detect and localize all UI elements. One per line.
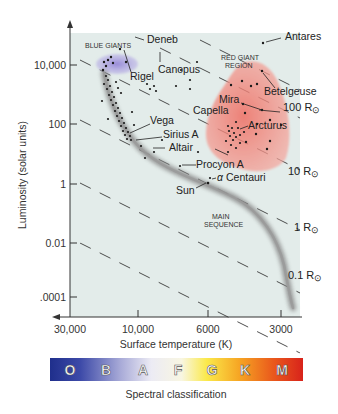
label-main-seq-1: MAIN [212,213,230,220]
spectral-a: A [138,362,148,378]
label-100-rsun: 100 R⊙ [283,101,320,115]
svg-text:6000: 6000 [196,323,220,335]
label-canopus: Canopus [158,63,200,75]
svg-text:0.01: 0.01 [46,237,67,249]
label-1-rsun: 1 R⊙ [294,221,319,235]
svg-text:1: 1 [60,178,66,190]
label-red-giant-1: RED GIANT [221,54,260,61]
spectral-label: Spectral classification [126,388,227,400]
label-10-rsun: 10 R⊙ [288,165,319,179]
label-rigel: Rigel [130,70,154,82]
label-deneb: Deneb [147,33,178,45]
spectral-k: K [240,362,250,378]
label-capella: Capella [193,104,229,116]
label-red-giant-2: REGION [225,62,253,69]
spectral-f: F [174,362,183,378]
label-procyon-a: Procyon A [196,158,244,170]
spectral-b: B [101,362,111,378]
label-betelgeuse: Betelgeuse [264,85,317,97]
label-sun: Sun [176,184,195,196]
spectral-o: O [65,362,76,378]
x-tick-labels: 30,000 10,000 6000 3000 [54,323,293,335]
svg-text:10,000: 10,000 [122,323,154,335]
svg-text:10,000: 10,000 [34,59,66,71]
label-blue-giants: BLUE GIANTS [85,42,132,49]
label-antares: Antares [285,30,321,42]
y-tick-labels: 10,000 100 1 0.01 .0001 [34,59,66,303]
label-main-seq-2: SEQUENCE [204,221,244,229]
label-sirius-a: Sirius A [163,128,199,140]
label-arcturus: Arcturus [248,119,287,131]
y-axis-label: Luminosity (solar units) [16,121,28,229]
label-0-1-rsun: 0.1 R⊙ [288,269,322,283]
hr-diagram: Deneb Rigel Canopus Antares Betelgeuse M… [0,0,338,414]
x-axis-label: Surface temperature (K) [120,338,233,350]
y-axis-arrow-icon [67,20,73,28]
svg-text:3000: 3000 [269,323,293,335]
spectral-g: G [207,362,218,378]
label-vega: Vega [150,114,174,126]
spectral-m: M [276,362,288,378]
label-altair: Altair [169,141,193,153]
svg-text:100: 100 [48,118,66,130]
svg-text:30,000: 30,000 [54,323,86,335]
x-axis-arrow-icon [52,314,60,320]
svg-text:.0001: .0001 [40,291,66,303]
